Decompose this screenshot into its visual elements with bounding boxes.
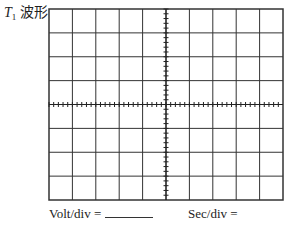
oscilloscope-grid [0,0,287,233]
volt-div-label: Volt/div = [49,206,101,221]
volt-div-field: Volt/div = [49,206,153,222]
sec-div-label: Sec/div = [188,206,238,221]
sec-div-blank[interactable] [188,222,236,233]
sec-div-field: Sec/div = [188,206,287,233]
volt-div-blank[interactable] [105,206,153,218]
